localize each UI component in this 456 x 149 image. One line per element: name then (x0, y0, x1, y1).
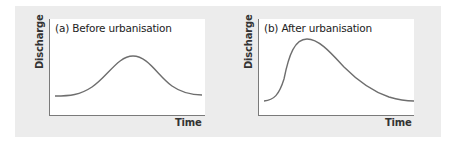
left-hydrograph-curve (50, 19, 205, 115)
right-plot-area: (b) After urbanisation (258, 19, 414, 116)
left-y-axis-label: Discharge (34, 14, 45, 69)
left-plot-area: (a) Before urbanisation (49, 19, 205, 116)
right-x-axis-label: Time (385, 117, 412, 128)
right-hydrograph-curve (259, 19, 414, 115)
right-y-axis-label: Discharge (243, 14, 254, 69)
figure-panel: Discharge (a) Before urbanisation Time D… (15, 6, 441, 137)
left-x-axis-label: Time (175, 117, 202, 128)
